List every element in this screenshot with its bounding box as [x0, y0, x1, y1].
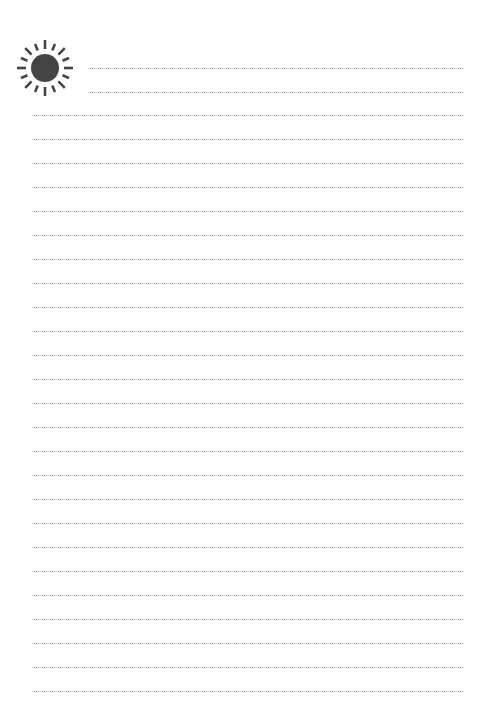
- header-ruled-line: [88, 92, 463, 93]
- ruled-line: [32, 307, 463, 308]
- ruled-line: [32, 595, 463, 596]
- ruled-line: [32, 403, 463, 404]
- header-ruled-line: [88, 68, 463, 69]
- ruled-line: [32, 211, 463, 212]
- ruled-line: [32, 499, 463, 500]
- sun-icon: [15, 38, 75, 98]
- ruled-line: [32, 379, 463, 380]
- ruled-line: [32, 547, 463, 548]
- ruled-line: [32, 475, 463, 476]
- ruled-line: [32, 619, 463, 620]
- ruled-line: [32, 523, 463, 524]
- ruled-line: [32, 691, 463, 692]
- ruled-line: [32, 331, 463, 332]
- ruled-line: [32, 115, 463, 116]
- ruled-line: [32, 667, 463, 668]
- ruled-line: [32, 427, 463, 428]
- ruled-line: [32, 235, 463, 236]
- ruled-line: [32, 571, 463, 572]
- ruled-line: [32, 163, 463, 164]
- ruled-line: [32, 259, 463, 260]
- notepaper-page: [0, 0, 491, 728]
- ruled-line: [32, 139, 463, 140]
- ruled-line: [32, 643, 463, 644]
- ruled-line: [32, 451, 463, 452]
- ruled-line: [32, 283, 463, 284]
- ruled-line: [32, 355, 463, 356]
- ruled-line: [32, 187, 463, 188]
